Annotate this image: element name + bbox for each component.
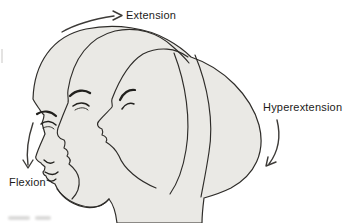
head-silhouette: [33, 26, 261, 223]
extension-label: Extension: [126, 9, 176, 21]
scan-artifact: [1, 49, 3, 63]
hyperextension-arrow-icon: [266, 120, 279, 166]
caption-smudge: [8, 216, 56, 221]
caption-smudge-mark: [8, 216, 30, 220]
flexion-arrow-tail: [27, 123, 33, 165]
hyperextension-arrow-tail: [269, 120, 279, 164]
flexion-arrow-icon: [23, 123, 33, 168]
caption-smudge-mark: [35, 216, 51, 220]
figure-canvas: Extension Flexion Hyperextension: [0, 0, 346, 223]
hyperextension-label: Hyperextension: [263, 101, 342, 113]
flexion-label: Flexion: [9, 176, 46, 188]
